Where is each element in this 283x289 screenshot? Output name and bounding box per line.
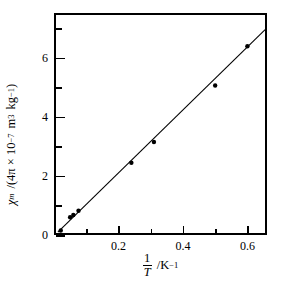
y-tick-major xyxy=(56,176,65,178)
y-axis-unit-length: m xyxy=(4,119,19,129)
x-tick-minor xyxy=(151,229,153,234)
data-point xyxy=(245,44,249,48)
y-tick-label: 6 xyxy=(34,52,48,64)
y-tick-minor xyxy=(56,146,62,148)
fraction-numerator: 1 xyxy=(143,252,151,265)
data-point xyxy=(71,213,75,217)
y-axis-open-paren: ( xyxy=(4,181,19,185)
y-tick-label: 4 xyxy=(34,111,48,123)
y-axis-title: χm/(4π × 10−7m3kg−1) xyxy=(0,0,22,289)
y-tick-major xyxy=(56,235,65,237)
x-axis-title: 1 T /K−1 xyxy=(54,252,267,279)
fit-line xyxy=(58,30,265,232)
y-tick-minor xyxy=(56,28,62,30)
y-tick-major xyxy=(56,58,65,60)
y-axis-close-paren: ) xyxy=(4,84,19,88)
data-point xyxy=(152,140,156,144)
x-tick-label: 0.6 xyxy=(240,240,255,252)
data-point xyxy=(129,161,133,165)
x-tick-minor xyxy=(215,229,217,234)
y-tick-minor xyxy=(56,205,62,207)
y-axis-unit-mass: kg xyxy=(4,97,19,110)
y-tick-label: 2 xyxy=(34,170,48,182)
x-tick-major xyxy=(183,226,185,234)
y-axis-separator: / xyxy=(4,185,19,188)
x-tick-label: 0.4 xyxy=(175,240,190,252)
figure-canvas: 0.20.40.6 0246 χm/(4π × 10−7m3kg−1) 1 T … xyxy=(0,0,283,289)
fraction-denominator: T xyxy=(143,265,152,279)
y-axis-factor: 4π × 10 xyxy=(4,143,19,181)
y-tick-label: 0 xyxy=(34,229,48,241)
inverse-temperature-fraction: 1 T xyxy=(143,252,152,279)
y-tick-major xyxy=(56,117,65,119)
data-point xyxy=(59,228,63,232)
y-axis-symbol: χ xyxy=(4,200,19,206)
fit-line-segment xyxy=(58,30,265,232)
data-point xyxy=(213,83,217,87)
x-tick-major xyxy=(118,226,120,234)
plot-data-layer xyxy=(54,13,267,235)
y-tick-minor xyxy=(56,87,62,89)
x-tick-label: 0.2 xyxy=(111,240,126,252)
x-tick-major xyxy=(247,226,249,234)
x-tick-minor xyxy=(86,229,88,234)
data-point xyxy=(76,209,80,213)
x-axis-unit-base: K xyxy=(160,258,169,273)
